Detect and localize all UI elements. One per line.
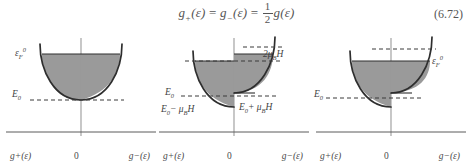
- panel-3-axis-labels: g+(ε) 0 g−(ε): [312, 147, 470, 161]
- axis-label-g-plus: g+(ε): [320, 151, 341, 161]
- zeeman-label-field: H: [276, 49, 283, 59]
- bb-plus-mu: + μ: [248, 102, 262, 112]
- bb-minus-field: H: [188, 104, 195, 114]
- band-bottom-sub: 0: [320, 94, 323, 101]
- eq-g-minus: g: [220, 5, 227, 20]
- eq-fraction-numerator: 1: [263, 1, 273, 13]
- eq-fraction-denominator: 2: [263, 13, 273, 26]
- band-fill-right: [391, 61, 430, 93]
- eq-g-minus-arg: (ε): [233, 5, 247, 20]
- band-bottom-label: E0: [314, 90, 323, 101]
- fermi-label-sub: F: [19, 53, 23, 60]
- panels-container: εF0 E0 g+(ε) 0 g−(ε): [0, 32, 473, 162]
- panel-split-bands: 2μBH E0 E0− μBH E0+ μBH g+(ε) 0 g−(ε): [155, 32, 313, 162]
- band-bottom-sub: 0: [171, 92, 174, 99]
- band-bottom-plus-label: E0+ μBH: [239, 103, 272, 114]
- axis-label-g-plus: g+(ε): [10, 151, 31, 161]
- bb-minus-mu: − μ: [170, 104, 184, 114]
- eq-equals-2: =: [251, 5, 259, 20]
- band-bottom-minus-label: E0− μBH: [161, 105, 194, 116]
- figure-page: g+(ε) = g−(ε) = 1 2 g(ε) (6.72): [0, 0, 473, 162]
- band-bottom-sub: 0: [18, 94, 21, 101]
- equation-row: g+(ε) = g−(ε) = 1 2 g(ε) (6.72): [0, 2, 473, 32]
- axis-label-origin: 0: [384, 151, 389, 161]
- axis-label-g-minus: g−(ε): [129, 151, 150, 161]
- equation-6-72: g+(ε) = g−(ε) = 1 2 g(ε): [0, 2, 473, 26]
- axis-label-g-minus: g−(ε): [439, 151, 460, 161]
- panel-3-graphic: [312, 32, 470, 148]
- panel-equilibrated-bands: εF0 E0 g+(ε) 0 g−(ε): [312, 32, 470, 162]
- band-bottom-label: E0: [12, 90, 21, 101]
- zeeman-splitting-label: 2μBH: [263, 50, 283, 61]
- eq-g-plus-arg: (ε): [191, 5, 205, 20]
- axis-label-origin: 0: [227, 151, 232, 161]
- panel-2-graphic: [155, 32, 313, 148]
- fermi-label-sub: F: [436, 61, 440, 68]
- band-bottom-label: E0: [165, 88, 174, 99]
- eq-one-half-fraction: 1 2: [263, 1, 273, 25]
- panel-zero-field: εF0 E0 g+(ε) 0 g−(ε): [2, 32, 160, 162]
- axis-label-g-minus: g−(ε): [282, 151, 303, 161]
- panel-2-axis-labels: g+(ε) 0 g−(ε): [155, 147, 313, 161]
- fermi-level-label: εF0: [432, 55, 443, 69]
- eq-equals-1: =: [209, 5, 217, 20]
- axis-label-origin: 0: [74, 151, 79, 161]
- fermi-label-sup: 0: [440, 54, 443, 61]
- zeeman-label-prefix: 2μ: [263, 49, 273, 59]
- axis-label-g-plus: g+(ε): [163, 151, 184, 161]
- eq-g-arg: (ε): [280, 5, 294, 20]
- fermi-level-label: εF0: [15, 47, 26, 61]
- fermi-label-sup: 0: [23, 46, 26, 53]
- panel-1-axis-labels: g+(ε) 0 g−(ε): [2, 147, 160, 161]
- bb-plus-field: H: [266, 102, 273, 112]
- equation-number: (6.72): [434, 7, 463, 22]
